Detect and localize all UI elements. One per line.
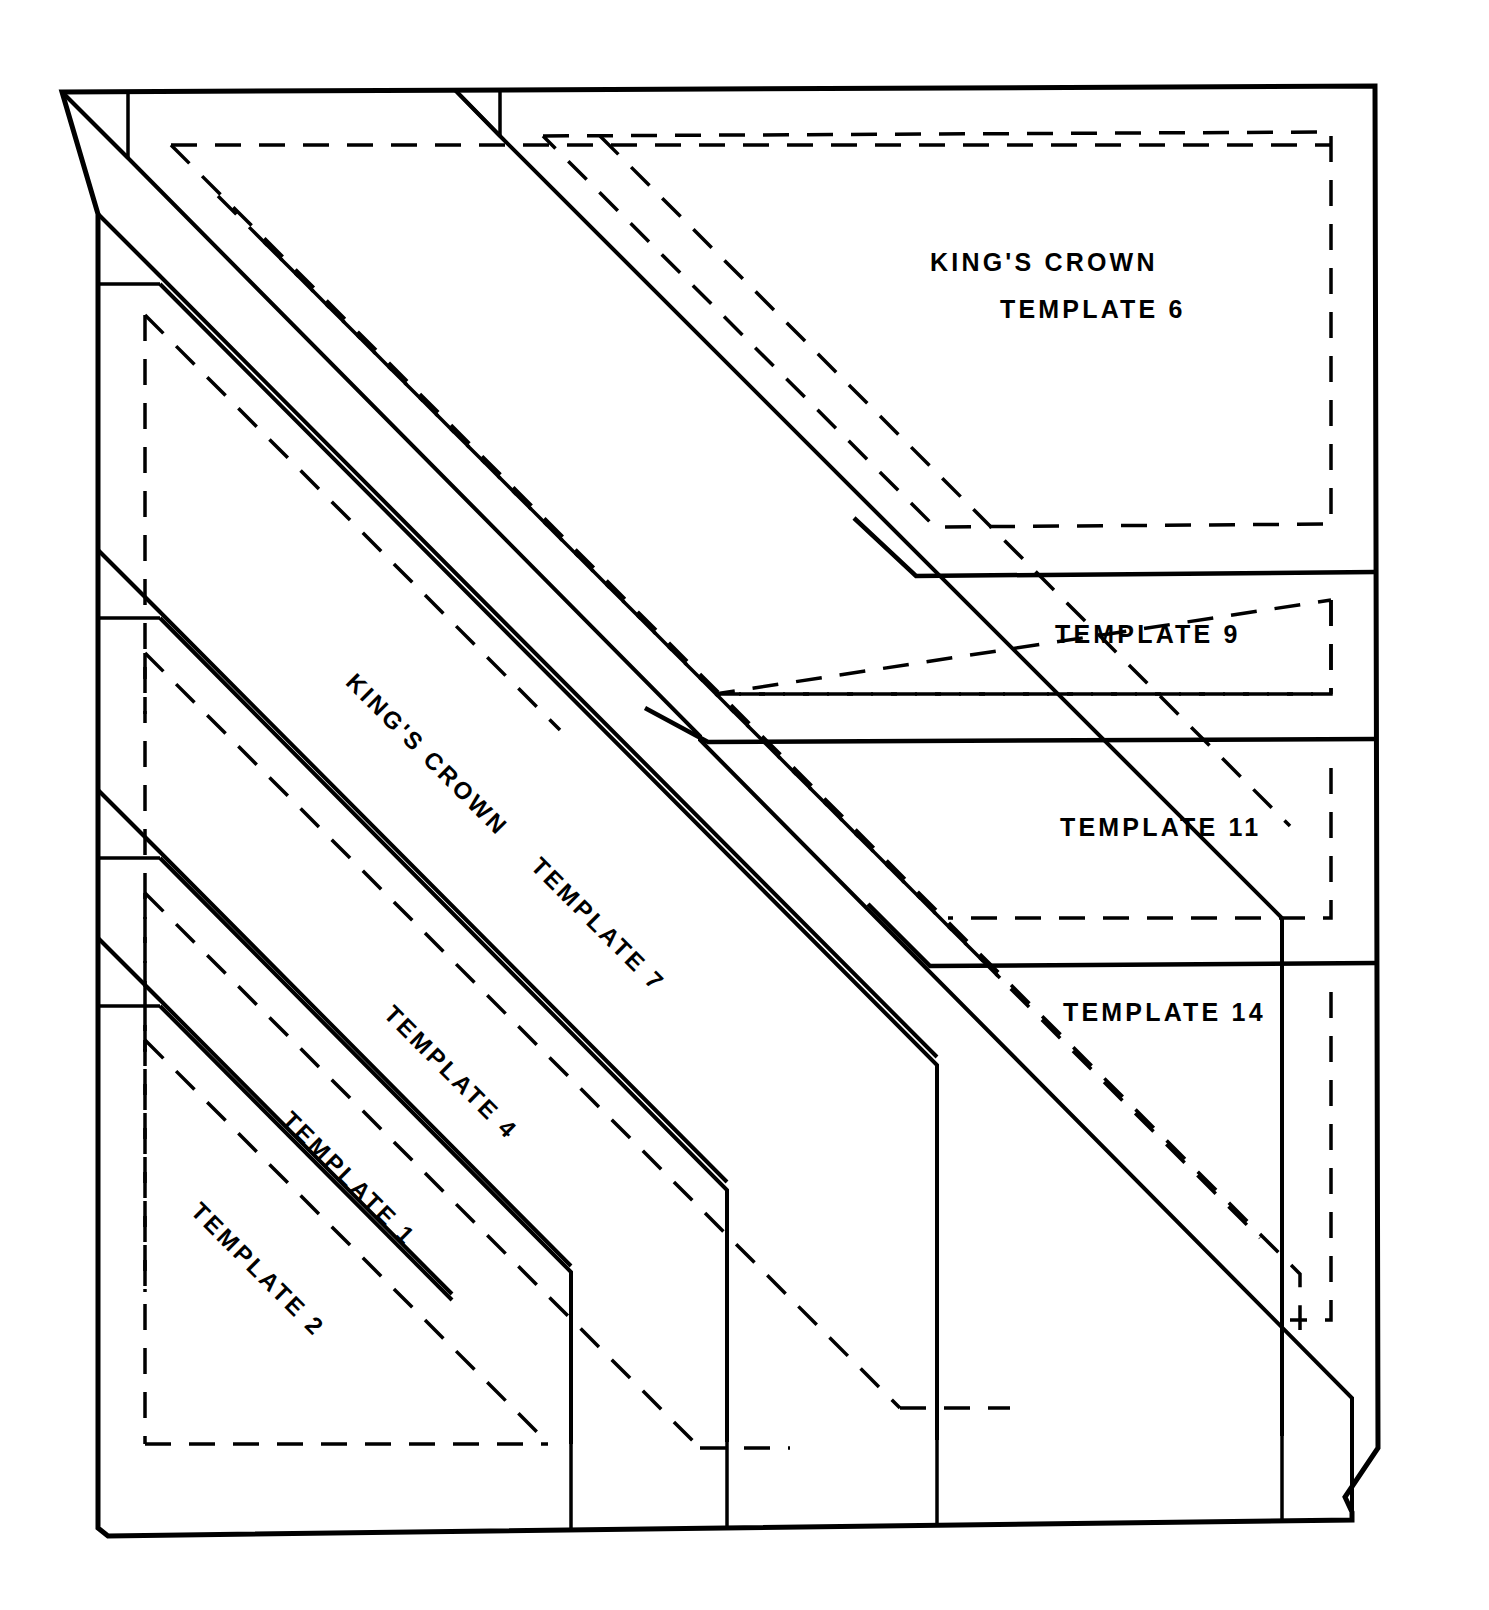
label-template-11: TEMPLATE 11 xyxy=(1060,813,1261,842)
band-edge-template1-lower xyxy=(160,858,571,1444)
title-label-top: KING'S CROWN xyxy=(930,248,1158,277)
template-sheet: KING'S CROWN TEMPLATE 6 TEMPLATE 9 TEMPL… xyxy=(0,0,1489,1610)
band-edge-aux-1 xyxy=(98,214,937,1057)
right-section-dividers xyxy=(645,518,1377,966)
template-drawing xyxy=(0,0,1489,1610)
seam-template1-diag-top xyxy=(145,893,700,1448)
top-edge-corner-triangles xyxy=(62,90,500,158)
seam-template6 xyxy=(543,132,1331,527)
seam-aux-diag-1 xyxy=(600,136,1290,826)
band-edge-aux-3 xyxy=(98,790,571,1266)
divider-below-template9 xyxy=(645,708,1377,742)
seam-template11 xyxy=(948,768,1331,918)
left-edge-corner-triangles xyxy=(98,214,160,1006)
label-template-9: TEMPLATE 9 xyxy=(1055,620,1241,649)
divider-below-template11 xyxy=(868,904,1377,966)
band-edge-template6-left-chamfer xyxy=(455,90,1282,1436)
label-template-6: TEMPLATE 6 xyxy=(1000,295,1186,324)
label-template-14: TEMPLATE 14 xyxy=(1063,998,1266,1027)
bottom-edge-corner-triangles xyxy=(571,1436,1282,1529)
band-edge-template4-lower xyxy=(160,618,727,1442)
